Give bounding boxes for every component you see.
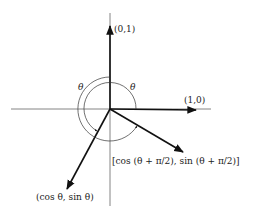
rotation-diagram: θ θ (0,1) (1,0) [cos (θ + π/2), sin (θ +… bbox=[0, 0, 259, 215]
theta-label-inner: θ bbox=[130, 82, 136, 92]
vector-e1 bbox=[110, 109, 196, 110]
label-e2: (0,1) bbox=[114, 24, 135, 34]
vector-rotated-e1 bbox=[67, 109, 110, 189]
label-e1: (1,0) bbox=[184, 95, 205, 105]
vector-rotated-e2 bbox=[110, 109, 183, 152]
label-rotated-e2: [cos (θ + π/2), sin (θ + π/2)] bbox=[112, 156, 240, 166]
label-rotated-e1: (cos θ, sin θ) bbox=[36, 192, 94, 202]
theta-label-outer: θ bbox=[78, 82, 84, 92]
